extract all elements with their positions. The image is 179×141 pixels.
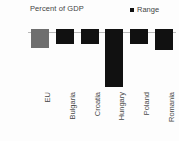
legend-swatch-range — [130, 8, 134, 12]
bar-chart: Percent of GDP Range 20-2-4-6-8 EUBulgar… — [0, 0, 179, 141]
x-tick-label-eu: EU — [43, 92, 52, 102]
x-tick-label-romania: Romania — [167, 92, 176, 122]
x-axis-labels: EUBulgariaCroatiaHungaryPolandRomania — [28, 92, 176, 141]
x-tick-label-poland: Poland — [142, 92, 151, 115]
chart-axis-title: Percent of GDP — [30, 4, 84, 13]
bar-poland — [130, 29, 148, 44]
bar-romania — [155, 29, 173, 50]
x-tick-label-hungary: Hungary — [117, 92, 126, 120]
plot-area: 20-2-4-6-8 — [28, 14, 176, 90]
bar-hungary — [105, 29, 123, 87]
x-tick-label-croatia: Croatia — [93, 92, 102, 116]
bar-eu — [31, 29, 49, 48]
bar-series-range — [28, 14, 176, 90]
chart-legend: Range — [130, 5, 159, 14]
bar-croatia — [81, 29, 99, 44]
bar-bulgaria — [56, 29, 74, 44]
x-tick-label-bulgaria: Bulgaria — [68, 92, 77, 120]
legend-label-range: Range — [137, 5, 159, 14]
